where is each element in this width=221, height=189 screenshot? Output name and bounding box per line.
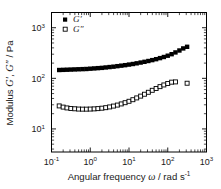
x-axis-title: Angular frequency ω / rad s-1 xyxy=(68,170,191,182)
data-point xyxy=(169,52,173,56)
x-title-omega: ω xyxy=(148,171,155,182)
data-point xyxy=(96,107,100,111)
x-tick-label: 101 xyxy=(122,155,136,167)
data-point xyxy=(88,67,92,71)
data-point xyxy=(162,83,166,87)
data-point xyxy=(177,48,181,52)
data-point xyxy=(158,85,162,89)
data-point xyxy=(119,102,123,106)
data-point xyxy=(146,59,150,63)
legend-label-g-prime: G′ xyxy=(73,14,83,24)
data-point xyxy=(104,106,108,110)
modulus-vs-angular-frequency-chart: 101102103 10-1100101102103 G′ G″ Modulus… xyxy=(0,0,221,189)
data-point xyxy=(112,104,116,108)
data-point xyxy=(76,67,80,71)
data-point xyxy=(69,67,73,71)
chart-legend: G′ G″ xyxy=(63,14,84,34)
y-tick-label: 101 xyxy=(32,123,46,135)
x-title-units: / rad s xyxy=(155,171,185,182)
data-point xyxy=(100,66,104,70)
data-point xyxy=(185,45,189,49)
y-axis-title: Modulus G′, G″ / Pa xyxy=(4,40,15,126)
legend-marker-g-double-prime xyxy=(63,27,67,31)
data-point xyxy=(150,58,154,62)
x-tick-label: 103 xyxy=(200,155,214,167)
data-point xyxy=(127,62,131,66)
x-tick-label: 102 xyxy=(161,155,175,167)
data-point xyxy=(57,104,61,108)
series-g-prime xyxy=(57,45,189,73)
series-g-double-prime xyxy=(57,80,189,111)
data-point xyxy=(119,63,123,67)
data-point xyxy=(135,61,139,65)
data-point xyxy=(77,107,81,111)
legend-marker-g-prime xyxy=(63,18,67,22)
data-point xyxy=(73,67,77,71)
data-point xyxy=(127,99,131,103)
data-point xyxy=(131,62,135,66)
chart-figure: 101102103 10-1100101102103 G′ G″ Modulus… xyxy=(0,0,221,189)
data-point xyxy=(123,63,127,67)
data-point xyxy=(84,67,88,71)
x-axis-tick-labels: 10-1100101102103 xyxy=(44,155,214,167)
data-point xyxy=(69,106,73,110)
x-title-exponent: -1 xyxy=(185,170,191,177)
y-title-prefix: Modulus xyxy=(4,87,15,126)
data-point xyxy=(65,106,69,110)
data-point xyxy=(81,107,85,111)
data-point xyxy=(154,57,158,61)
data-point xyxy=(96,66,100,70)
data-point xyxy=(80,67,84,71)
data-point xyxy=(166,54,170,58)
y-tick-label: 103 xyxy=(32,22,46,34)
data-point xyxy=(61,68,65,72)
data-point xyxy=(173,50,177,54)
data-point xyxy=(104,65,108,69)
data-point xyxy=(154,86,158,90)
data-point xyxy=(111,64,115,68)
data-point xyxy=(150,88,154,92)
data-point xyxy=(185,81,189,85)
x-title-prefix: Angular frequency xyxy=(68,171,149,182)
data-point xyxy=(73,107,77,111)
data-point xyxy=(142,92,146,96)
data-point xyxy=(88,107,92,111)
data-point xyxy=(181,46,185,50)
y-title-g-double-prime: G″ xyxy=(4,59,15,71)
y-title-suffix: / Pa xyxy=(4,40,15,60)
data-point xyxy=(107,65,111,69)
data-point xyxy=(142,60,146,64)
x-tick-label: 100 xyxy=(84,155,98,167)
data-point xyxy=(162,55,166,59)
legend-label-g-double-prime: G″ xyxy=(73,24,84,34)
data-point xyxy=(158,56,162,60)
data-point xyxy=(84,107,88,111)
data-point xyxy=(166,82,170,86)
x-tick-label: 10-1 xyxy=(44,155,60,167)
data-point xyxy=(65,68,69,72)
data-point xyxy=(173,80,177,84)
data-point xyxy=(135,96,139,100)
y-axis-title-text: Modulus G′, G″ / Pa xyxy=(4,40,15,126)
data-point xyxy=(138,60,142,64)
data-point xyxy=(57,68,61,72)
data-point xyxy=(108,105,112,109)
data-point xyxy=(92,66,96,70)
x-axis-title-text: Angular frequency ω / rad s-1 xyxy=(68,170,191,182)
data-point xyxy=(146,90,150,94)
y-axis-tick-labels: 101102103 xyxy=(32,22,46,135)
data-point xyxy=(115,103,119,107)
data-point xyxy=(115,64,119,68)
y-tick-label: 102 xyxy=(32,72,46,84)
data-point xyxy=(123,101,127,105)
